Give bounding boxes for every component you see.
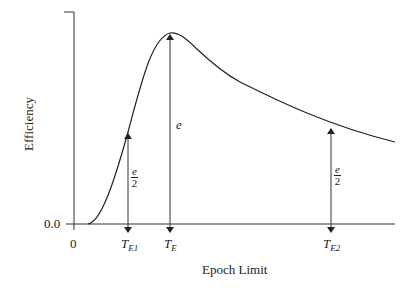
- x-tick-te2: TE2: [323, 236, 340, 253]
- te1-sub: E1: [128, 243, 138, 253]
- x-tick-zero: 0: [70, 236, 77, 252]
- y-axis: [64, 12, 74, 230]
- y-axis-label: Efficiency: [21, 89, 37, 159]
- te-sub: E: [171, 243, 177, 253]
- te2-sub: E2: [330, 243, 340, 253]
- x-tick-te: TE: [164, 236, 177, 253]
- peak-label: e: [176, 117, 182, 133]
- half-left-den: 2: [132, 178, 138, 189]
- efficiency-curve: [88, 33, 395, 224]
- x-tick-te1: TE1: [121, 236, 138, 253]
- half-right-den: 2: [335, 176, 341, 187]
- efficiency-diagram: [0, 0, 413, 288]
- y-tick-zero: 0.0: [44, 216, 60, 232]
- x-axis-label: Epoch Limit: [202, 262, 267, 278]
- half-label-right: e 2: [334, 164, 341, 187]
- half-label-left: e 2: [131, 166, 138, 189]
